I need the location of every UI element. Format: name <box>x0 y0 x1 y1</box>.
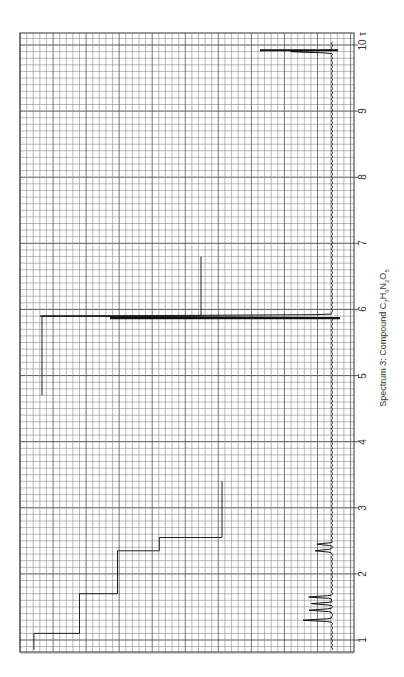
chart-grid <box>20 33 354 653</box>
tick-label: 9 <box>357 108 368 114</box>
tick-label: 7 <box>357 241 368 247</box>
tick-label: 1 <box>357 637 368 643</box>
axis-ticks <box>354 45 358 640</box>
tick-label: 4 <box>357 439 368 445</box>
tick-label: 3 <box>357 505 368 511</box>
tick-label: 5 <box>357 373 368 379</box>
tick-label: 2 <box>357 571 368 577</box>
nmr-spectrum-chart <box>0 0 404 677</box>
tick-label: 10 <box>357 39 368 50</box>
chart-caption: Spectrum 3: Compound C7H6N2O5 <box>378 269 390 406</box>
spectrum-traces <box>34 42 340 650</box>
tick-label: 6 <box>357 307 368 313</box>
tick-label: 8 <box>357 174 368 180</box>
tau-unit-label: τ <box>357 32 368 36</box>
